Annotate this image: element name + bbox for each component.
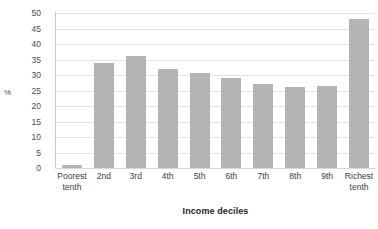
x-axis-title: Income deciles bbox=[56, 206, 375, 216]
x-axis-line bbox=[55, 168, 375, 169]
bar bbox=[317, 86, 337, 168]
y-tick-label: 35 bbox=[32, 56, 41, 65]
x-tick-label: 8th bbox=[279, 171, 311, 182]
bar bbox=[221, 78, 241, 168]
bar bbox=[253, 84, 273, 168]
x-tick-label: 4th bbox=[152, 171, 184, 182]
x-tick-label: 5th bbox=[184, 171, 216, 182]
bar bbox=[285, 87, 305, 168]
y-tick-label: 45 bbox=[32, 25, 41, 34]
bar-slot bbox=[120, 13, 152, 168]
y-axis-tick-labels: 50454035302520151050 bbox=[0, 0, 52, 229]
x-tick-label: 2nd bbox=[88, 171, 120, 182]
bar-slot bbox=[247, 13, 279, 168]
x-axis-tick-labels: Poorest tenth2nd3rd4th5th6th7th8th9thRic… bbox=[56, 171, 375, 205]
y-tick-label: 40 bbox=[32, 40, 41, 49]
bar bbox=[190, 73, 210, 168]
x-tick-label: 7th bbox=[247, 171, 279, 182]
x-tick-label: 3rd bbox=[120, 171, 152, 182]
bar-slot bbox=[152, 13, 184, 168]
bar-slot bbox=[184, 13, 216, 168]
y-tick-label: 0 bbox=[36, 164, 41, 173]
bar bbox=[158, 69, 178, 168]
bar bbox=[126, 56, 146, 168]
bar bbox=[349, 19, 369, 168]
bar bbox=[62, 165, 82, 168]
y-tick-label: 15 bbox=[32, 118, 41, 127]
x-tick-label: Richest tenth bbox=[343, 171, 375, 192]
x-tick-label: Poorest tenth bbox=[56, 171, 88, 192]
y-tick-label: 50 bbox=[32, 9, 41, 18]
x-tick-label: 9th bbox=[311, 171, 343, 182]
x-tick-label: 6th bbox=[216, 171, 248, 182]
bar-slot bbox=[279, 13, 311, 168]
bar-series bbox=[56, 13, 375, 168]
y-tick-label: 25 bbox=[32, 87, 41, 96]
bar-chart: % 50454035302520151050 Poorest tenth2nd3… bbox=[0, 0, 378, 229]
bar-slot bbox=[343, 13, 375, 168]
bar-slot bbox=[216, 13, 248, 168]
bar-slot bbox=[311, 13, 343, 168]
y-tick-label: 20 bbox=[32, 102, 41, 111]
y-tick-label: 10 bbox=[32, 133, 41, 142]
bar-slot bbox=[88, 13, 120, 168]
bar-slot bbox=[56, 13, 88, 168]
y-tick-label: 5 bbox=[36, 149, 41, 158]
bar bbox=[94, 63, 114, 168]
y-tick-label: 30 bbox=[32, 71, 41, 80]
